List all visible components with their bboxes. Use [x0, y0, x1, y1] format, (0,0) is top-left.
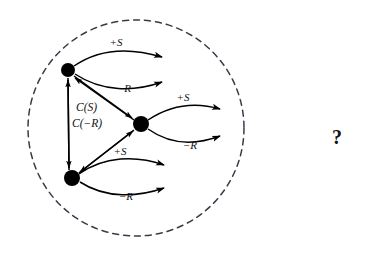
edge-label-middle-plus-s: +S — [177, 91, 190, 103]
edge-label-bottom-plus-s: +S — [114, 145, 127, 157]
transition-arrow-vertical-down — [68, 78, 69, 168]
diagram-svg: +S −R +S −R +S −R C(S) C(−R) ? — [0, 0, 370, 257]
question-mark: ? — [332, 126, 342, 148]
state-node-top[interactable] — [61, 63, 75, 77]
edge-label-top-minus-r: −R — [117, 82, 131, 94]
figure-canvas: +S −R +S −R +S −R C(S) C(−R) ? — [0, 0, 370, 257]
state-node-middle[interactable] — [133, 116, 149, 132]
edge-label-top-plus-s: +S — [110, 36, 123, 48]
outcome-arrow-middle-plus-s — [148, 105, 220, 120]
edge-label-middle-minus-r: −R — [183, 139, 197, 151]
outcome-arrow-top-plus-s — [74, 51, 162, 66]
outcome-arrow-bottom-plus-s — [79, 159, 164, 174]
cost-label-c-s: C(S) — [76, 101, 97, 114]
state-node-bottom[interactable] — [64, 170, 80, 186]
edge-label-bottom-minus-r: −R — [119, 190, 133, 202]
cost-label-c-minus-r: C(−R) — [72, 117, 102, 130]
